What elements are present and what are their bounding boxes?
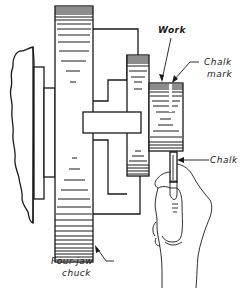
spindle-collar: [34, 67, 55, 199]
work-piece: [149, 83, 183, 151]
leader-chuck: [95, 245, 114, 261]
lathe-chuck-diagram: [0, 0, 241, 288]
label-chalk: Chalk: [210, 155, 238, 165]
chuck-body: [55, 6, 93, 262]
leader-chalk: [177, 157, 209, 163]
leader-work: [159, 38, 171, 82]
label-chuck-line2: chuck: [62, 268, 91, 278]
label-chuck-line1: Four-jaw: [51, 256, 93, 266]
label-chalk-mark-line2: mark: [207, 69, 232, 79]
center-boss: [83, 112, 141, 133]
label-work: Work: [158, 25, 186, 35]
label-chalk-mark-line1: Chalk: [204, 57, 232, 67]
hand: [153, 164, 212, 288]
leader-chalk-mark: [172, 62, 199, 83]
headstock-spindle: [10, 47, 34, 223]
chalk-stick: [170, 152, 177, 182]
